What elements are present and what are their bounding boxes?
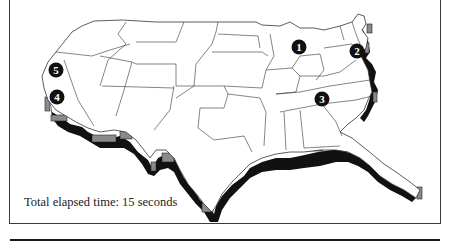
marker-4: 4 [50, 90, 65, 105]
figure-caption: Total elapsed time: 15 seconds [24, 195, 177, 210]
marker-5: 5 [49, 63, 64, 78]
marker-3: 3 [315, 92, 330, 107]
svg-text:1: 1 [296, 41, 302, 53]
svg-text:3: 3 [319, 93, 325, 105]
svg-text:2: 2 [354, 45, 360, 57]
horizontal-rule [10, 239, 440, 241]
svg-text:5: 5 [53, 64, 59, 76]
marker-1: 1 [292, 40, 307, 55]
marker-2: 2 [350, 44, 365, 59]
us-outline [42, 14, 420, 212]
svg-text:4: 4 [54, 91, 60, 103]
